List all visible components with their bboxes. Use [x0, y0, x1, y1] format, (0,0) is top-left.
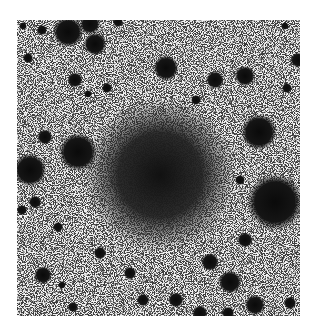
star [284, 297, 297, 310]
star [235, 66, 256, 87]
star [84, 90, 92, 98]
star [237, 232, 253, 248]
star [235, 175, 245, 185]
star [23, 53, 33, 63]
star-field-image [17, 20, 300, 316]
star-field-photo [17, 20, 300, 316]
star [58, 281, 66, 289]
star [94, 247, 107, 260]
star [83, 32, 106, 55]
star [53, 222, 63, 232]
star [37, 129, 53, 145]
star [241, 114, 277, 150]
star [281, 22, 289, 30]
star [153, 55, 179, 81]
star [67, 72, 83, 88]
star [59, 133, 98, 172]
star [282, 83, 292, 93]
central-diffuse-object [83, 98, 237, 252]
star [137, 294, 150, 307]
star [218, 270, 241, 293]
star [29, 196, 42, 209]
star [17, 205, 27, 215]
star [201, 253, 219, 271]
star [206, 71, 224, 89]
star [19, 22, 27, 30]
star [168, 292, 184, 308]
star [37, 25, 47, 35]
star [245, 295, 266, 316]
star [68, 302, 78, 312]
star [102, 83, 112, 93]
star [124, 267, 137, 280]
star [191, 95, 201, 105]
star [34, 266, 52, 284]
